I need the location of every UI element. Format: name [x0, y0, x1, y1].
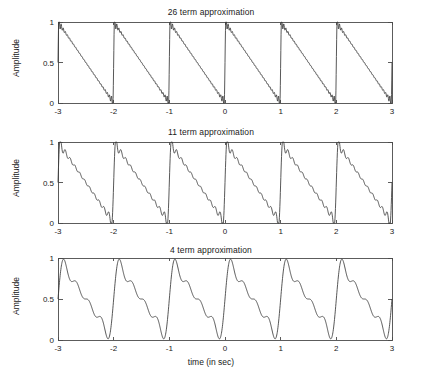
svg-text:2: 2: [334, 227, 339, 236]
svg-text:0.5: 0.5: [43, 179, 55, 188]
svg-text:2: 2: [334, 344, 339, 353]
svg-text:1: 1: [278, 227, 283, 236]
figure-canvas: 26 term approximation Amplitude -3-2-101…: [0, 0, 422, 377]
svg-text:1: 1: [50, 18, 55, 27]
svg-text:0: 0: [50, 99, 55, 108]
x-axis-label: time (in sec): [0, 357, 422, 367]
plot-panel-26-term: 26 term approximation Amplitude -3-2-101…: [0, 0, 422, 122]
svg-text:-1: -1: [166, 227, 174, 236]
svg-text:0: 0: [50, 219, 55, 228]
svg-text:-3: -3: [54, 344, 62, 353]
svg-text:1: 1: [278, 107, 283, 116]
svg-text:-2: -2: [110, 107, 118, 116]
svg-text:0: 0: [223, 107, 228, 116]
svg-text:-1: -1: [166, 107, 174, 116]
svg-text:-3: -3: [54, 107, 62, 116]
plot-panel-11-term: 11 term approximation Amplitude -3-2-101…: [0, 120, 422, 242]
svg-text:2: 2: [334, 107, 339, 116]
svg-text:-3: -3: [54, 227, 62, 236]
svg-text:1: 1: [50, 138, 55, 147]
plot-panel-4-term: 4 term approximation Amplitude -3-2-1012…: [0, 240, 422, 377]
plot-svg-11-term: -3-2-1012300.51: [0, 120, 422, 242]
svg-text:3: 3: [390, 107, 395, 116]
svg-text:0: 0: [50, 336, 55, 345]
svg-text:1: 1: [50, 254, 55, 263]
svg-text:0: 0: [223, 227, 228, 236]
svg-text:0.5: 0.5: [43, 295, 55, 304]
svg-text:-1: -1: [166, 344, 174, 353]
svg-text:3: 3: [390, 227, 395, 236]
svg-text:0: 0: [223, 344, 228, 353]
svg-text:3: 3: [390, 344, 395, 353]
svg-text:-2: -2: [110, 227, 118, 236]
svg-text:-2: -2: [110, 344, 118, 353]
plot-svg-26-term: -3-2-1012300.51: [0, 0, 422, 122]
svg-text:1: 1: [278, 344, 283, 353]
svg-text:0.5: 0.5: [43, 59, 55, 68]
